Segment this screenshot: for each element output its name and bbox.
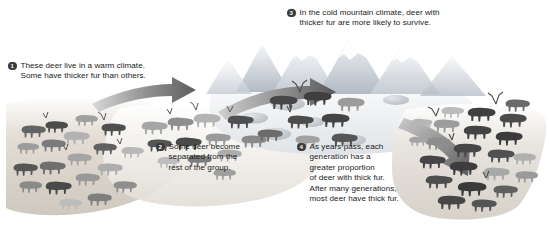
mountain-range [206, 34, 486, 96]
callout-bullet-3: 3 [287, 9, 296, 18]
callout-bullet-1: 1 [8, 62, 17, 71]
callout-step-3: 3 In the cold mountain climate, deer wit… [287, 8, 502, 29]
callout-text-4: As years pass, each generation has a gre… [310, 142, 399, 204]
callout-text-1: These deer live in a warm climate. Some … [21, 61, 146, 82]
diagram-panel: 1 These deer live in a warm climate. Som… [0, 0, 549, 228]
callout-bullet-2: 2 [156, 143, 165, 152]
rock [383, 95, 409, 105]
mountain-peak-6 [420, 56, 486, 96]
diagram-illustration [0, 0, 549, 228]
callout-text-3: In the cold mountain climate, deer with … [300, 8, 440, 29]
callout-step-2: 2 Some deer become separated from the re… [156, 142, 261, 173]
callout-text-2: Some deer become separated from the rest… [169, 142, 240, 173]
callout-bullet-4: 4 [297, 143, 306, 152]
callout-step-4: 4 As years pass, each generation has a g… [297, 142, 422, 204]
callout-step-1: 1 These deer live in a warm climate. Som… [8, 61, 178, 82]
